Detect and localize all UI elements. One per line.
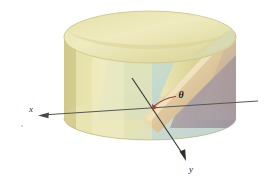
- x-axis-arrowhead: [38, 112, 49, 118]
- theta-label: θ: [178, 89, 184, 100]
- y-axis-label: y: [188, 164, 193, 174]
- z-axis-tick-label: z: [20, 123, 23, 128]
- figure-canvas: x y z θ: [0, 0, 273, 183]
- cylinder-solid: [60, 10, 250, 150]
- x-axis-label: x: [28, 104, 33, 114]
- cylinder-plane-figure: x y z θ: [0, 0, 273, 183]
